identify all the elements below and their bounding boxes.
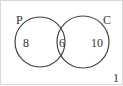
venn-canvas: P C 8 6 10 1	[0, 0, 123, 86]
venn-diagram: P C 8 6 10 1	[0, 0, 123, 86]
c-only-value: 10	[91, 36, 103, 50]
outside-value: 1	[113, 71, 119, 85]
set-c-label: C	[103, 13, 111, 27]
intersection-value: 6	[59, 36, 65, 50]
set-p-label: P	[16, 13, 23, 27]
p-only-value: 8	[23, 36, 29, 50]
